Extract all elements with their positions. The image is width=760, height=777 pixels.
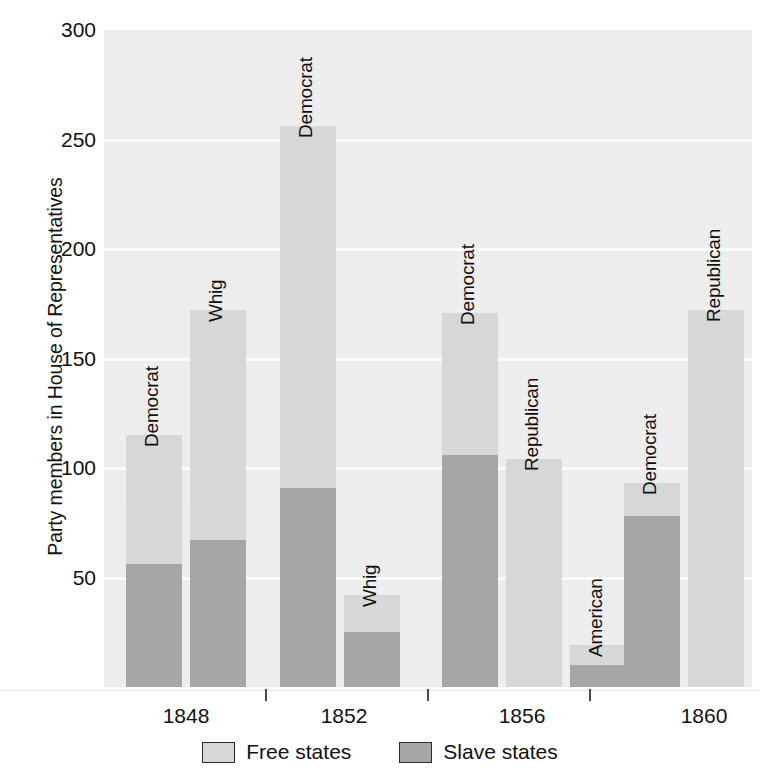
legend-item-slave-states: Slave states: [399, 740, 557, 764]
x-axis-line: [0, 690, 760, 691]
bar-segment-free-states: [190, 310, 246, 540]
bar-label: American: [585, 579, 607, 658]
bar-1860-democrat: [624, 483, 680, 687]
bar-1856-democrat: [442, 313, 498, 687]
x-tick-label: 1860: [644, 704, 760, 728]
x-tick-label: 1852: [284, 704, 404, 728]
bar-segment-free-states: [126, 435, 182, 564]
gridline: [104, 139, 752, 142]
y-tick-label: 150: [26, 348, 96, 369]
gridline: [104, 248, 752, 251]
legend-label-free-states: Free states: [246, 740, 351, 764]
y-tick-label: 300: [26, 19, 96, 40]
legend-label-slave-states: Slave states: [443, 740, 557, 764]
y-tick-label: 250: [26, 129, 96, 150]
x-axis-tick: [589, 689, 591, 701]
x-axis-tick: [427, 689, 429, 701]
bar-label: Whig: [205, 280, 227, 323]
bar-segment-slave-states: [442, 455, 498, 687]
bar-segment-slave-states: [624, 516, 680, 687]
chart-legend: Free states Slave states: [0, 740, 760, 764]
bar-label: Whig: [359, 565, 381, 608]
y-tick-label: 100: [26, 457, 96, 478]
bar-segment-free-states: [442, 313, 498, 455]
bar-label: Republican: [703, 229, 725, 322]
bar-segment-slave-states: [126, 564, 182, 687]
bar-label: Democrat: [141, 366, 163, 447]
bar-1852-democrat: [280, 126, 336, 687]
x-axis-tick: [265, 689, 267, 701]
bar-label: Democrat: [295, 58, 317, 139]
bar-1860-republican: [688, 310, 744, 687]
bar-segment-free-states: [280, 126, 336, 487]
bar-segment-slave-states: [570, 665, 626, 687]
legend-swatch-free-states: [202, 742, 235, 763]
y-axis-ticks: 50100150200250300: [18, 0, 96, 777]
bar-1856-republican: [506, 459, 562, 687]
y-tick-label: 200: [26, 238, 96, 259]
bar-1852-whig: [344, 595, 400, 687]
bar-segment-slave-states: [190, 540, 246, 687]
bar-chart: Party members in House of Representative…: [0, 0, 760, 777]
legend-swatch-slave-states: [399, 742, 432, 763]
plot-area: DemocratWhigDemocratWhigDemocratRepublic…: [104, 30, 752, 687]
bar-1848-whig: [190, 310, 246, 687]
bar-segment-slave-states: [280, 488, 336, 687]
bar-label: Democrat: [639, 415, 661, 496]
bar-segment-free-states: [506, 459, 562, 687]
y-tick-label: 50: [26, 567, 96, 588]
bar-label: Republican: [521, 378, 543, 471]
bar-segment-slave-states: [344, 632, 400, 687]
legend-item-free-states: Free states: [202, 740, 351, 764]
x-tick-label: 1856: [462, 704, 582, 728]
bar-label: Democrat: [457, 244, 479, 325]
bar-segment-free-states: [688, 310, 744, 687]
x-tick-label: 1848: [126, 704, 246, 728]
bar-1848-democrat: [126, 435, 182, 687]
